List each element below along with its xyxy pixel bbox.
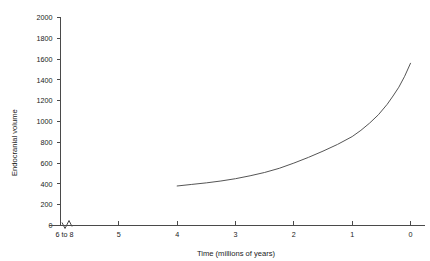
y-axis: 0200400600800100012001400160018002000 En… (10, 13, 61, 230)
y-tick-label: 2000 (37, 13, 53, 22)
y-tick-label: 1000 (37, 117, 53, 126)
endocranial-volume-chart: 0200400600800100012001400160018002000 En… (0, 0, 430, 261)
endocranial-volume-curve (177, 63, 410, 186)
data-series-group (177, 63, 410, 186)
y-tick-label: 200 (41, 200, 53, 209)
chart-canvas: 0200400600800100012001400160018002000 En… (0, 0, 430, 261)
y-axis-ticks: 0200400600800100012001400160018002000 (37, 13, 61, 230)
x-axis-ticks: 6 to 8543210 (56, 221, 413, 239)
y-tick-label: 1600 (37, 55, 53, 64)
y-tick-label: 600 (41, 159, 53, 168)
x-tick-label: 1 (350, 230, 354, 239)
y-tick-label: 1200 (37, 96, 53, 105)
x-tick-label: 5 (117, 230, 121, 239)
x-tick-label: 2 (292, 230, 296, 239)
x-tick-label: 3 (234, 230, 238, 239)
y-tick-label: 1800 (37, 34, 53, 43)
x-axis: 6 to 8543210 Time (millions of years) (49, 221, 425, 259)
y-axis-title: Endocranial volume (10, 109, 19, 176)
x-tick-label: 0 (409, 230, 413, 239)
x-tick-label: 6 to 8 (56, 230, 74, 239)
x-axis-title: Time (millions of years) (197, 249, 276, 258)
axis-break-icon (62, 221, 72, 229)
y-tick-label: 800 (41, 138, 53, 147)
x-tick-label: 4 (175, 230, 179, 239)
y-tick-label: 400 (41, 180, 53, 189)
y-tick-label: 1400 (37, 76, 53, 85)
